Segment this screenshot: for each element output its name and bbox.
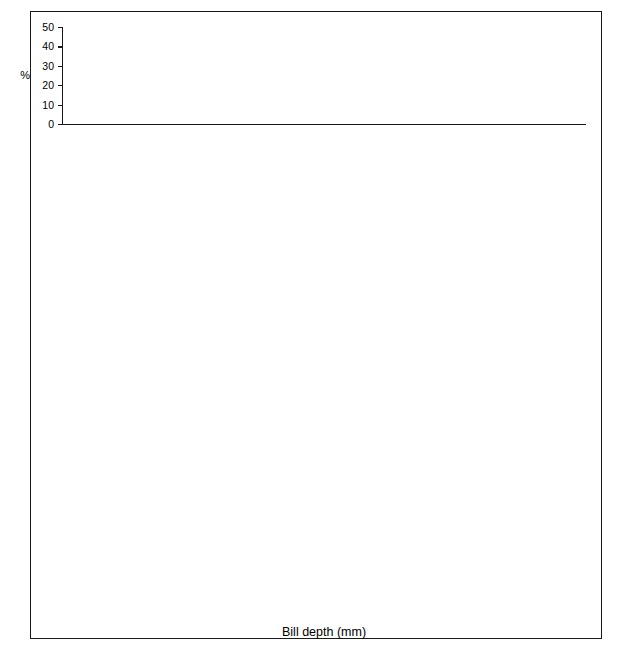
y-tick-label: 10 <box>34 100 54 111</box>
y-axis-line <box>62 27 63 125</box>
y-tick-label: 40 <box>34 41 54 52</box>
y-tick <box>58 46 62 47</box>
y-axis-title: % <box>16 69 30 81</box>
y-tick <box>58 85 62 86</box>
y-tick-label: 30 <box>34 61 54 72</box>
x-axis-title: Bill depth (mm) <box>282 625 366 639</box>
y-tick <box>58 27 62 28</box>
y-tick <box>58 105 62 106</box>
y-tick-label: 20 <box>34 80 54 91</box>
y-tick <box>58 66 62 67</box>
y-tick-label: 0 <box>34 119 54 130</box>
figure-root: 01020304050% Bill depth (mm) <box>0 0 634 653</box>
y-tick-label: 50 <box>34 22 54 33</box>
figure-frame <box>30 11 602 639</box>
x-axis-line <box>62 124 586 125</box>
